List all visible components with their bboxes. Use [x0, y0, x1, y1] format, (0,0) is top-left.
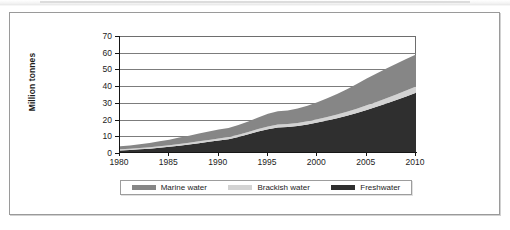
- x-axis-line: [119, 152, 417, 153]
- page-top-rule: [40, 1, 470, 3]
- y-tick-label: 40: [103, 81, 112, 91]
- x-tick-label: 1985: [159, 157, 178, 167]
- y-axis-title: Million tonnes: [27, 27, 37, 137]
- legend-swatch: [228, 185, 252, 190]
- x-tick-label: 2000: [307, 157, 326, 167]
- y-tick-label: 70: [103, 31, 112, 41]
- legend-item-brackish-water: Brackish water: [228, 183, 309, 192]
- y-tick-label: 20: [103, 115, 112, 125]
- legend-label: Marine water: [161, 183, 207, 192]
- y-tick-label: 50: [103, 64, 112, 74]
- legend-item-freshwater: Freshwater: [331, 183, 400, 192]
- y-tick-label: 30: [103, 98, 112, 108]
- x-tick-label: 1990: [208, 157, 227, 167]
- area-series-group: [120, 36, 416, 153]
- y-tick-label: 60: [103, 48, 112, 58]
- x-tick-label: 2005: [356, 157, 375, 167]
- legend-item-marine-water: Marine water: [132, 183, 207, 192]
- legend-label: Brackish water: [257, 183, 309, 192]
- legend-swatch: [331, 185, 355, 190]
- x-tick-label: 2010: [406, 157, 425, 167]
- x-tick-label: 1995: [258, 157, 277, 167]
- legend-swatch: [132, 185, 156, 190]
- stacked-area-chart: Million tonnes 010203040506070 198019851…: [10, 13, 499, 214]
- chart-legend: Marine waterBrackish waterFreshwater: [120, 180, 412, 195]
- plot-area: 010203040506070 198019851990199520002005…: [119, 36, 416, 152]
- figure-frame: Million tonnes 010203040506070 198019851…: [9, 12, 500, 215]
- y-axis-line: [119, 36, 120, 153]
- x-tick-label: 1980: [110, 157, 129, 167]
- y-tick-label: 10: [103, 131, 112, 141]
- legend-label: Freshwater: [360, 183, 400, 192]
